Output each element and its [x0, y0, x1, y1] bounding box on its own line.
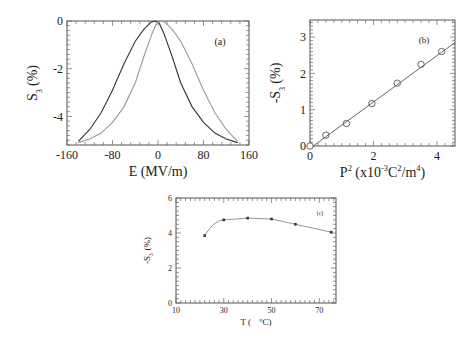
x-title-unit: °C) [259, 317, 272, 327]
tick-marks [176, 198, 336, 303]
y-tick-label: 4 [168, 229, 172, 238]
data-point-marker [246, 217, 249, 220]
chart-c: 103050700246(c)-S3(%)T (°C) [142, 194, 336, 327]
x-tick-label: 0 [155, 148, 161, 162]
x-title-part: C [388, 165, 397, 180]
panel-label: (b) [419, 35, 430, 45]
x-tick-label: 0 [307, 149, 313, 163]
y-tick-label: 2 [168, 264, 172, 273]
data-point-marker [270, 218, 273, 221]
x-axis-title: E (MV/m) [129, 164, 188, 180]
x-axis-title: T (°C) [240, 317, 271, 327]
x-title-part: -3 [381, 164, 388, 173]
y-title-sub: 3 [278, 87, 287, 91]
y-tick-label: -4 [53, 110, 63, 124]
y-title-main: -S [142, 256, 152, 264]
y-title-main: S [25, 93, 40, 101]
x-tick-label: -80 [105, 148, 121, 162]
series-line [313, 43, 455, 146]
x-tick-label: 10 [172, 306, 180, 315]
data-point-marker [203, 234, 206, 237]
data-point-marker [307, 143, 313, 149]
y-tick-label: -2 [53, 62, 63, 76]
y-title-unit: (%) [142, 237, 152, 251]
x-axis-title: P2 (x10-3C2/m4) [340, 164, 426, 181]
data-point-marker [330, 231, 333, 234]
x-title-part: /m [402, 165, 417, 180]
data-point-marker [222, 219, 225, 222]
x-title-part: P [340, 165, 348, 180]
y-title-unit: (%) [25, 65, 41, 86]
y-axis-title: S3(%) [25, 65, 44, 101]
x-title-part: (x10 [352, 165, 381, 181]
y-tick-label: 6 [168, 194, 172, 203]
data-point-marker [294, 223, 297, 226]
y-tick-label: 0 [300, 139, 306, 153]
y-axis-title: -S3(%) [142, 237, 154, 264]
y-title-sub: 3 [35, 89, 44, 93]
panel-label: (c) [317, 210, 324, 217]
plot-frame [310, 20, 455, 146]
y-tick-label: 2 [300, 67, 306, 81]
tick-marks [310, 20, 455, 146]
y-tick-label: 3 [300, 30, 306, 44]
x-tick-label: 80 [198, 148, 210, 162]
x-tick-label: 4 [434, 149, 440, 163]
x-title-part: ) [420, 165, 425, 181]
y-tick-label: 0 [57, 14, 63, 28]
x-tick-label: -160 [56, 148, 78, 162]
y-title-sub: 3 [148, 253, 154, 256]
data-point-marker [418, 61, 424, 67]
plot-frame [176, 198, 336, 303]
chart-a: -160-800801600-2-4(a)S3(%)E (MV/m) [25, 14, 258, 180]
y-tick-label: 1 [300, 103, 306, 117]
figure: -160-800801600-2-4(a)S3(%)E (MV/m)024012… [0, 0, 472, 339]
x-title-main: T ( [240, 317, 251, 327]
x-tick-label: 50 [268, 306, 276, 315]
y-axis-title: -S3(%) [268, 62, 287, 103]
x-tick-label: 70 [315, 306, 323, 315]
y-title-main: -S [268, 91, 283, 103]
y-title-unit: (%) [268, 62, 284, 83]
x-tick-label: 160 [240, 148, 258, 162]
panel-label: (a) [214, 36, 225, 48]
y-tick-label: 0 [168, 299, 172, 308]
chart-b: 0240123(b)-S3(%)P2 (x10-3C2/m4) [268, 20, 455, 181]
x-tick-label: 30 [220, 306, 228, 315]
x-tick-label: 2 [370, 149, 376, 163]
